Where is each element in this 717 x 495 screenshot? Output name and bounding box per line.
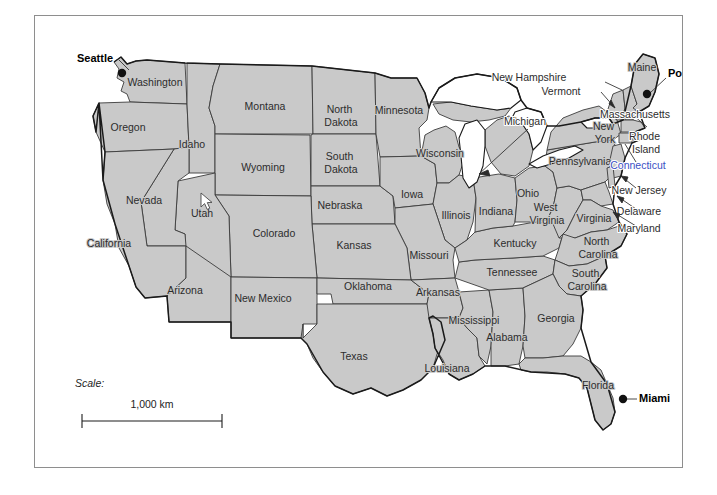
state-label-south-dakota-line2: Dakota xyxy=(324,163,357,175)
state-label-south-carolina-line1: South xyxy=(572,267,600,279)
state-shape-texas[interactable] xyxy=(301,304,445,396)
scale-bar: Scale: 1,000 km xyxy=(75,377,222,428)
callout-label-michigan: Michigan xyxy=(504,115,546,127)
state-label-north-dakota: North Dakota xyxy=(324,103,357,128)
state-label-arkansas: Arkansas xyxy=(416,286,460,298)
state-label-mississippi: Mississippi xyxy=(449,314,500,326)
callout-label-new-hampshire: New Hampshire xyxy=(492,71,567,83)
state-label-georgia: Georgia xyxy=(537,312,575,324)
city-dot-miami[interactable] xyxy=(619,395,627,403)
state-label-north-dakota-line1: North xyxy=(327,103,353,115)
state-label-tennessee: Tennessee xyxy=(487,266,538,278)
state-shape-alabama[interactable] xyxy=(489,288,525,366)
state-label-nebraska: Nebraska xyxy=(318,199,363,211)
scale-value: 1,000 km xyxy=(130,398,173,410)
callout-label-rhode-island-line2: Island xyxy=(632,143,660,155)
map-figure: Washington Oregon Idaho Montana Wyoming … xyxy=(34,15,683,468)
state-label-west-virginia-line1: West xyxy=(534,201,558,213)
callout-label-delaware: Delaware xyxy=(617,205,662,217)
state-label-north-carolina-line1: North xyxy=(584,235,610,247)
state-label-nevada: Nevada xyxy=(126,194,162,206)
state-label-montana: Montana xyxy=(245,100,286,112)
us-map-svg[interactable]: Washington Oregon Idaho Montana Wyoming … xyxy=(35,16,682,467)
state-label-louisiana: Louisiana xyxy=(425,362,470,374)
state-label-california: California xyxy=(87,237,132,249)
state-label-west-virginia: West Virginia xyxy=(530,201,565,226)
scale-label: Scale: xyxy=(75,377,104,389)
state-label-utah: Utah xyxy=(191,207,213,219)
state-label-west-virginia-line2: Virginia xyxy=(530,214,565,226)
state-label-arizona: Arizona xyxy=(167,284,203,296)
state-label-oklahoma: Oklahoma xyxy=(344,280,392,292)
state-label-maine: Maine xyxy=(628,61,657,73)
callout-label-rhode-island-line1: Rhode xyxy=(629,130,660,142)
state-label-florida: Florida xyxy=(582,379,614,391)
state-label-illinois: Illinois xyxy=(441,209,470,221)
state-label-north-carolina: North Carolina xyxy=(578,235,617,260)
callout-label-rhode-island: Rhode Island xyxy=(629,130,663,155)
state-shape-kansas[interactable] xyxy=(312,224,411,280)
state-label-south-dakota-line1: South xyxy=(326,150,354,162)
leader-arrow-delaware xyxy=(617,196,624,203)
state-label-minnesota: Minnesota xyxy=(375,104,424,116)
callout-label-maryland: Maryland xyxy=(617,222,660,234)
state-label-wisconsin: Wisconsin xyxy=(416,147,464,159)
state-shape-indiana[interactable] xyxy=(473,174,517,232)
city-dot-seattle[interactable] xyxy=(118,69,126,77)
city-dot-portland[interactable] xyxy=(643,90,651,98)
state-label-missouri: Missouri xyxy=(409,249,448,261)
state-label-oregon: Oregon xyxy=(110,121,145,133)
city-label-portland: Portland xyxy=(668,67,682,79)
state-label-texas: Texas xyxy=(340,350,367,362)
state-label-new-york-line2: York xyxy=(595,133,616,145)
state-label-wyoming: Wyoming xyxy=(241,161,285,173)
city-label-miami: Miami xyxy=(639,392,670,404)
state-label-pennsylvania: Pennsylvania xyxy=(549,155,612,167)
state-label-idaho: Idaho xyxy=(179,138,205,150)
state-label-south-carolina: South Carolina xyxy=(567,267,606,292)
state-label-washington: Washington xyxy=(127,76,182,88)
state-label-kentucky: Kentucky xyxy=(493,237,537,249)
callout-label-vermont: Vermont xyxy=(541,85,580,97)
city-label-seattle: Seattle xyxy=(77,52,113,64)
state-label-alabama: Alabama xyxy=(486,331,528,343)
leader-new-hampshire xyxy=(605,82,622,90)
state-label-indiana: Indiana xyxy=(479,205,514,217)
state-label-ohio: Ohio xyxy=(517,187,539,199)
state-shape-new-mexico[interactable] xyxy=(231,277,317,338)
state-label-iowa: Iowa xyxy=(401,188,423,200)
state-label-south-carolina-line2: Carolina xyxy=(567,280,606,292)
state-shape-florida[interactable] xyxy=(519,356,615,430)
state-label-colorado: Colorado xyxy=(253,227,296,239)
callout-label-connecticut: Connecticut xyxy=(610,159,666,171)
state-label-new-york: New York xyxy=(593,120,617,145)
state-label-south-dakota: South Dakota xyxy=(324,150,357,175)
state-label-kansas: Kansas xyxy=(336,239,371,251)
state-label-new-mexico: New Mexico xyxy=(234,292,291,304)
state-label-virginia: Virginia xyxy=(577,212,612,224)
callout-label-new-jersey: New Jersey xyxy=(612,184,668,196)
state-label-north-carolina-line2: Carolina xyxy=(578,248,617,260)
state-label-north-dakota-line2: Dakota xyxy=(324,116,357,128)
callout-label-massachusetts: Massachusetts xyxy=(600,108,670,120)
state-label-new-york-line1: New xyxy=(593,120,614,132)
